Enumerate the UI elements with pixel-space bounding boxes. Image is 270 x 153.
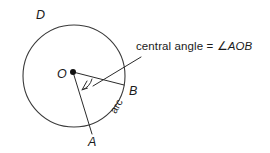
callout-leader-line — [93, 57, 141, 86]
label-point-d: D — [36, 9, 45, 22]
callout-prefix-text: central angle = — [136, 40, 217, 52]
center-point-dot — [70, 69, 76, 75]
angle-symbol-icon: ∠ — [217, 40, 228, 52]
figure-canvas — [0, 0, 270, 153]
label-point-b: B — [129, 85, 137, 98]
callout-central-angle: central angle = ∠AOB — [136, 41, 252, 53]
radius-oa-line — [73, 72, 92, 134]
label-center-o: O — [57, 68, 67, 81]
central-angle-figure: D O A B arc central angle = ∠AOB — [0, 0, 270, 153]
label-point-a: A — [88, 136, 96, 149]
callout-points-text: AOB — [228, 40, 253, 52]
